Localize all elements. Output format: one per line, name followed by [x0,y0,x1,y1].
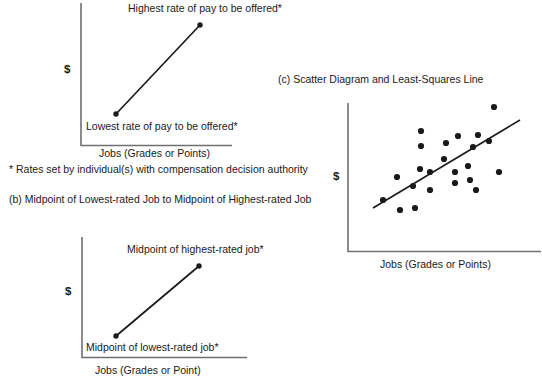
panel-b-x-axis-label: Jobs (Grades or Point) [95,364,201,376]
panel-a-y-axis-label: $ [64,63,70,75]
panel-c-x-axis-label: Jobs (Grades or Points) [380,258,491,270]
panel-c-heading: (c) Scatter Diagram and Least-Squares Li… [278,73,483,85]
panel-c-scatter-points [380,104,502,213]
panel-a-line [113,22,202,116]
scatter-point [475,132,481,138]
scatter-point [410,183,416,189]
panel-a-lower-endpoint [113,111,118,116]
scatter-point [473,187,479,193]
scatter-point [418,128,424,134]
panel-a-upper-endpoint [197,22,202,27]
panel-b-line [113,263,201,338]
scatter-point [417,166,423,172]
scatter-point [452,180,458,186]
panel-c-y-axis-label: $ [333,170,339,182]
scatter-point [452,169,458,175]
scatter-point [427,187,433,193]
scatter-point [380,197,386,203]
scatter-point [441,156,447,162]
scatter-point [496,169,502,175]
scatter-point [394,174,400,180]
panel-b-upper-endpoint [196,263,201,268]
panel-b-axes [82,237,247,358]
panel-a-x-axis-label: Jobs (Grades or Points) [99,147,210,159]
scatter-point [465,163,471,169]
scatter-point [397,207,403,213]
panel-b-y-axis-label: $ [65,285,71,297]
panel-c-regression-line [373,120,520,208]
panel-a-lowest-rate-label: Lowest rate of pay to be offered* [86,120,238,132]
scatter-point [418,143,424,149]
panel-a-highest-rate-label: Highest rate of pay to be offered* [128,2,282,14]
scatter-point [486,138,492,144]
panel-b-lowest-midpoint-label: Midpoint of lowest-rated job* [86,341,219,353]
scatter-point [467,177,473,183]
footnote-rates-set-by: * Rates set by individual(s) with compen… [9,163,308,175]
scatter-point [427,169,433,175]
scatter-point [491,104,497,110]
panel-b-lower-endpoint [113,333,118,338]
panel-b-highest-midpoint-label: Midpoint of highest-rated job* [127,243,264,255]
scatter-point [455,133,461,139]
scatter-point [470,144,476,150]
panel-b-heading: (b) Midpoint of Lowest-rated Job to Midp… [9,193,311,205]
scatter-point [412,205,418,211]
scatter-point [443,140,449,146]
